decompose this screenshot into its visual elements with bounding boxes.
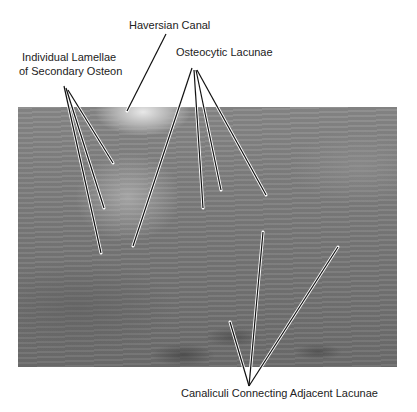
label-osteocytic-lacunae: Osteocytic Lacunae [176, 45, 273, 59]
label-lamellae-line2: of Secondary Osteon [19, 64, 122, 78]
leader-haversian-canal [127, 34, 166, 111]
leader-canaliculi-2 [249, 232, 263, 386]
leader-lamella-2 [66, 88, 104, 208]
label-haversian-canal: Haversian Canal [129, 18, 210, 32]
leader-canaliculi-3 [249, 247, 338, 386]
leader-lacuna-1 [133, 68, 192, 246]
label-canaliculi: Canaliculi Connecting Adjacent Lacunae [181, 386, 378, 400]
leader-lacuna-4 [197, 70, 266, 195]
leader-lamella-3 [68, 90, 113, 163]
label-lamellae-line1: Individual Lamellae [22, 50, 116, 64]
leader-canaliculi-1 [230, 322, 249, 386]
